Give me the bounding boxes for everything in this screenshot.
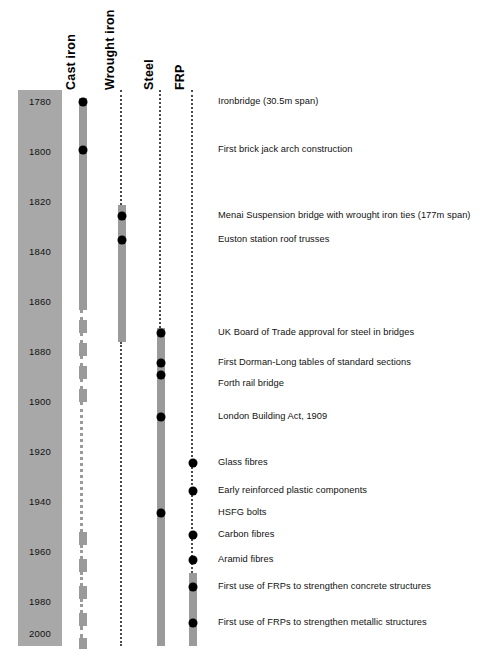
cast-iron-dots-long xyxy=(80,402,86,532)
column-cast-iron xyxy=(73,90,93,646)
year-label-2000: 2000 xyxy=(18,628,62,639)
event-dot-forth-bridge[interactable] xyxy=(157,371,166,380)
event-label-london-building-act: London Building Act, 1909 xyxy=(218,412,327,421)
year-label-1820: 1820 xyxy=(18,196,62,207)
event-label-menai-bridge: Menai Suspension bridge with wrought iro… xyxy=(218,211,471,220)
column-header-frp-slot: FRP xyxy=(187,6,203,90)
event-label-brick-jack-arch: First brick jack arch construction xyxy=(218,145,352,154)
column-header-steel: Steel xyxy=(142,59,156,90)
cast-iron-dots-seg xyxy=(80,599,86,613)
year-label-1880: 1880 xyxy=(18,346,62,357)
event-dot-menai-bridge[interactable] xyxy=(118,212,127,221)
column-header-cast-iron: Cast iron xyxy=(64,34,78,90)
event-dot-euston-trusses[interactable] xyxy=(118,236,127,245)
cast-iron-block xyxy=(79,559,87,572)
cast-iron-dots-seg xyxy=(80,333,86,343)
event-dot-london-building-act[interactable] xyxy=(157,413,166,422)
event-label-frp-metallic: First use of FRPs to strengthen metallic… xyxy=(218,618,427,627)
cast-iron-block xyxy=(79,532,87,545)
event-dot-carbon-fibres[interactable] xyxy=(189,531,198,540)
cast-iron-block xyxy=(79,586,87,599)
cast-iron-block xyxy=(79,638,87,649)
event-dot-dorman-long[interactable] xyxy=(157,359,166,368)
event-dot-brick-jack-arch[interactable] xyxy=(79,146,88,155)
wrought-iron-solid-bar xyxy=(118,205,126,342)
year-label-1840: 1840 xyxy=(18,246,62,257)
year-label-1860: 1860 xyxy=(18,296,62,307)
column-header-cast-iron-slot: Cast iron xyxy=(78,6,94,90)
cast-iron-block xyxy=(79,366,87,379)
event-dot-board-of-trade[interactable] xyxy=(157,329,166,338)
event-dot-ironbridge[interactable] xyxy=(79,98,88,107)
column-header-wrought-iron: Wrought iron xyxy=(103,9,117,90)
event-label-reinforced-plastic: Early reinforced plastic components xyxy=(218,486,367,495)
year-label-1900: 1900 xyxy=(18,396,62,407)
cast-iron-block xyxy=(79,343,87,356)
column-header-steel-slot: Steel xyxy=(156,6,172,90)
cast-iron-dots-seg xyxy=(80,545,86,559)
event-label-aramid-fibres: Aramid fibres xyxy=(218,555,273,564)
cast-iron-dots-seg xyxy=(80,626,86,638)
cast-iron-block xyxy=(79,389,87,402)
column-frp xyxy=(183,90,203,646)
cast-iron-solid-bar xyxy=(79,98,87,310)
frp-dotted-top xyxy=(191,90,195,573)
wrought-iron-dotted-top xyxy=(120,90,124,205)
event-label-euston-trusses: Euston station roof trusses xyxy=(218,235,329,244)
year-label-1920: 1920 xyxy=(18,446,62,457)
column-steel xyxy=(151,90,171,646)
materials-timeline-chart: 1780 1800 1820 1840 1860 1880 1900 1920 … xyxy=(0,0,497,671)
event-label-carbon-fibres: Carbon fibres xyxy=(218,530,274,539)
event-dot-frp-metallic[interactable] xyxy=(189,619,198,628)
cast-iron-dots-seg xyxy=(80,379,86,389)
year-axis-band xyxy=(18,90,62,646)
event-label-dorman-long: First Dorman-Long tables of standard sec… xyxy=(218,358,411,367)
cast-iron-dots-seg xyxy=(80,310,86,320)
event-dot-reinforced-plastic[interactable] xyxy=(189,487,198,496)
event-dot-hsfg-bolts[interactable] xyxy=(157,509,166,518)
event-dot-aramid-fibres[interactable] xyxy=(189,556,198,565)
event-label-glass-fibres: Glass fibres xyxy=(218,458,268,467)
cast-iron-block xyxy=(79,613,87,626)
year-label-1980: 1980 xyxy=(18,596,62,607)
event-dot-glass-fibres[interactable] xyxy=(189,459,198,468)
event-label-forth-bridge: Forth rail bridge xyxy=(218,379,284,388)
cast-iron-dots-seg xyxy=(80,572,86,586)
event-label-ironbridge: Ironbridge (30.5m span) xyxy=(218,97,318,106)
event-label-frp-concrete: First use of FRPs to strengthen concrete… xyxy=(218,582,431,591)
year-label-1780: 1780 xyxy=(18,96,62,107)
steel-dotted-top xyxy=(159,90,163,328)
wrought-iron-dotted-bottom xyxy=(120,342,124,646)
cast-iron-block xyxy=(79,320,87,333)
cast-iron-dots-seg xyxy=(80,356,86,366)
year-label-1800: 1800 xyxy=(18,146,62,157)
event-label-board-of-trade: UK Board of Trade approval for steel in … xyxy=(218,328,414,337)
event-label-hsfg-bolts: HSFG bolts xyxy=(218,508,267,517)
year-label-1940: 1940 xyxy=(18,496,62,507)
event-dot-frp-concrete[interactable] xyxy=(189,583,198,592)
year-label-1960: 1960 xyxy=(18,546,62,557)
column-header-frp: FRP xyxy=(173,64,187,90)
column-wrought-iron xyxy=(112,90,132,646)
column-header-wrought-iron-slot: Wrought iron xyxy=(117,6,133,90)
